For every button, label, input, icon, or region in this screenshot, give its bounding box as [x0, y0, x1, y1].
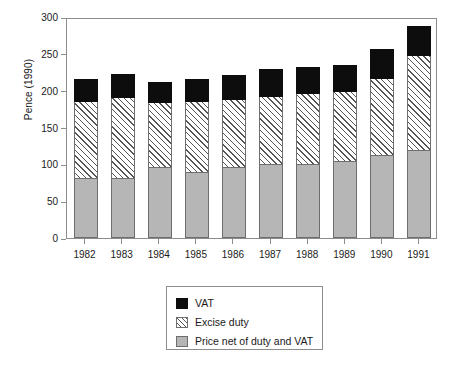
legend-label: Price net of duty and VAT: [195, 335, 313, 347]
bar-segment-vat: [74, 79, 98, 101]
bar-segment-price-net-of-duty-and-vat: [259, 164, 283, 238]
bar-segment-vat: [185, 79, 209, 102]
bar-segment-excise-duty: [407, 55, 431, 151]
y-tick-label: 250: [41, 48, 58, 61]
bar-stack: [185, 77, 209, 238]
bar-segment-excise-duty: [259, 96, 283, 165]
bar-stack: [259, 67, 283, 238]
y-tick-label: 100: [41, 158, 58, 171]
bar-segment-vat: [370, 49, 394, 78]
legend-label: VAT: [195, 297, 214, 309]
bar-segment-price-net-of-duty-and-vat: [407, 150, 431, 238]
bar-segment-price-net-of-duty-and-vat: [333, 161, 357, 238]
bar-segment-price-net-of-duty-and-vat: [74, 178, 98, 238]
bar-segment-vat: [222, 75, 246, 100]
bar-stack: [74, 77, 98, 238]
legend-item[interactable]: Price net of duty and VAT: [176, 335, 313, 347]
legend-label: Excise duty: [195, 316, 249, 328]
bar-segment-excise-duty: [111, 97, 135, 179]
bar-stack: [111, 72, 135, 238]
bar-stack: [333, 63, 357, 238]
bar-segment-excise-duty: [370, 78, 394, 156]
x-tick-mark: [195, 239, 196, 244]
bar-segment-excise-duty: [74, 101, 98, 179]
stacked-bar-chart-figure: Pence (1990) 050100150200250300 19821983…: [0, 0, 456, 374]
x-tick-mark: [232, 239, 233, 244]
x-tick-mark: [344, 239, 345, 244]
x-tick-mark: [121, 239, 122, 244]
bar-segment-vat: [333, 65, 357, 92]
x-tick-mark: [381, 239, 382, 244]
bar-segment-price-net-of-duty-and-vat: [222, 167, 246, 238]
bar-segment-price-net-of-duty-and-vat: [111, 178, 135, 238]
y-tick-label: 200: [41, 85, 58, 98]
bar-stack: [296, 65, 320, 238]
y-tick-label: 300: [41, 11, 58, 24]
bar-segment-excise-duty: [222, 99, 246, 168]
chart-legend: VATExcise dutyPrice net of duty and VAT: [166, 286, 323, 350]
bar-segment-price-net-of-duty-and-vat: [370, 155, 394, 238]
x-tick-mark: [84, 239, 85, 244]
bar-segment-vat: [259, 69, 283, 97]
x-tick-mark: [418, 239, 419, 244]
plot-area: [66, 18, 437, 239]
legend-swatch-solid-grey: [176, 336, 188, 347]
x-tick-label: 1991: [396, 249, 440, 260]
legend-swatch-diagonal-hatch: [176, 317, 188, 328]
bar-segment-excise-duty: [148, 102, 172, 168]
y-tick-label: 150: [41, 122, 58, 135]
bar-stack: [370, 47, 394, 238]
bar-segment-excise-duty: [185, 101, 209, 174]
bar-stack: [222, 73, 246, 238]
bar-segment-excise-duty: [296, 93, 320, 164]
legend-item[interactable]: VAT: [176, 297, 214, 309]
y-tick-label: 50: [47, 195, 58, 208]
y-axis-title: Pence (1990): [23, 30, 34, 150]
x-tick-mark: [270, 239, 271, 244]
bar-segment-price-net-of-duty-and-vat: [296, 164, 320, 238]
bar-stack: [148, 80, 172, 238]
bar-segment-price-net-of-duty-and-vat: [148, 167, 172, 238]
bar-segment-vat: [148, 82, 172, 103]
bar-segment-excise-duty: [333, 91, 357, 162]
bar-segment-vat: [407, 26, 431, 56]
bar-segment-price-net-of-duty-and-vat: [185, 172, 209, 238]
x-tick-mark: [158, 239, 159, 244]
legend-swatch-solid-black: [176, 298, 188, 309]
legend-item[interactable]: Excise duty: [176, 316, 249, 328]
bar-stack: [407, 24, 431, 238]
bar-segment-vat: [111, 74, 135, 98]
x-tick-mark: [307, 239, 308, 244]
bar-segment-vat: [296, 67, 320, 94]
y-tick-label: 0: [52, 232, 58, 245]
